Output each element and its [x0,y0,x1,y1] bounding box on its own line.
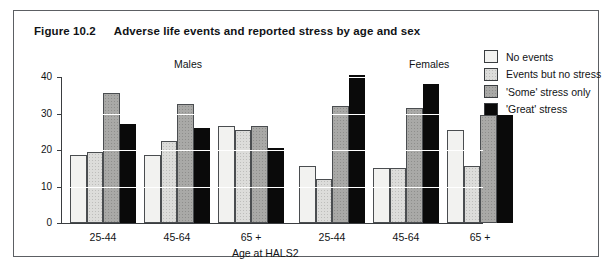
legend-label: Events but no stress [506,68,601,80]
legend-label: 'Some' stress only [506,86,591,98]
legend-item: Events but no stress [484,66,615,84]
x-axis-tick-label: 65 + [439,231,521,243]
legend-label: No events [506,51,553,63]
bar [464,166,481,223]
gridline [62,114,483,115]
bar [120,124,137,223]
legend-item: 'Some' stress only [484,83,615,101]
bar [218,126,235,223]
bar [70,155,87,223]
group-heading-females: Females [409,58,449,70]
y-axis-tick-label: 30 [30,108,52,119]
x-axis-tick-label: 25-44 [62,231,144,243]
y-axis-tick [57,150,61,151]
y-axis-tick [57,223,61,224]
gridline [62,187,483,188]
y-axis-tick-label: 20 [30,144,52,155]
figure-frame: Figure 10.2 Adverse life events and repo… [13,10,599,257]
bar [390,168,407,223]
legend-swatch-events-no-stress [484,68,498,81]
y-axis-tick-label: 0 [30,217,52,228]
bar [144,155,161,223]
bar [373,168,390,223]
legend-swatch-no-events [484,50,498,63]
legend-swatch-some-stress [484,85,498,98]
bar [497,115,514,223]
x-axis-tick-label: 65 + [210,231,292,243]
bar [447,130,464,223]
bar [480,115,497,223]
chart-legend: No events Events but no stress 'Some' st… [484,48,615,118]
legend-swatch-great-stress [484,103,498,116]
figure-title-row: Figure 10.2 Adverse life events and repo… [34,25,420,37]
bar [235,130,252,223]
group-heading-males: Males [174,58,202,70]
bar [251,126,268,223]
gridline [62,150,483,151]
x-axis-tick-label: 45-64 [365,231,447,243]
figure-title: Adverse life events and reported stress … [114,25,420,37]
bar [423,84,440,223]
x-axis-line [61,223,483,224]
bar [194,128,211,223]
x-axis-tick-label: 25-44 [291,231,373,243]
bar [161,141,178,223]
x-axis-tick-label: 45-64 [136,231,218,243]
y-axis-tick [57,77,61,78]
bar [299,166,316,223]
bar [406,108,423,223]
y-axis-tick [57,114,61,115]
bar [177,104,194,223]
legend-item: No events [484,48,615,66]
gridline [62,77,483,78]
y-axis-tick-label: 10 [30,181,52,192]
bar [332,106,349,223]
legend-label: 'Great' stress [506,103,567,115]
figure-number: Figure 10.2 [34,25,96,37]
y-axis-tick-label: 40 [30,71,52,82]
x-axis-title: Age at HALS2 [232,247,299,259]
y-axis-tick [57,187,61,188]
